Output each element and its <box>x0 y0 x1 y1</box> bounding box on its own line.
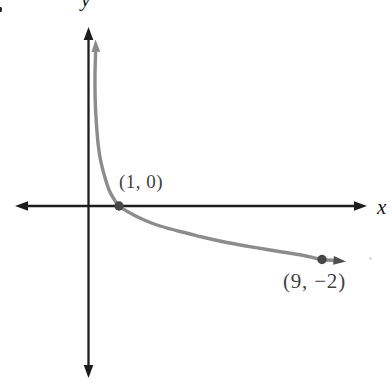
scan-speck <box>369 257 372 260</box>
point-dot-9-neg2 <box>317 255 326 264</box>
log-curve <box>95 52 335 261</box>
graph-canvas <box>0 0 392 383</box>
curve-arrow-right-icon <box>333 256 346 265</box>
x-axis-arrow-left-icon <box>15 201 28 211</box>
graph-figure: y x (1, 0) (9, −2) <box>0 0 392 383</box>
point-label-9-neg2: (9, −2) <box>283 269 346 294</box>
x-axis-arrow-right-icon <box>354 201 367 211</box>
point-dot-1-0 <box>114 201 123 210</box>
point-label-1-0: (1, 0) <box>119 171 163 193</box>
y-axis-arrow-up-icon <box>84 27 94 40</box>
y-axis-label: y <box>81 0 90 12</box>
y-axis-arrow-down-icon <box>84 365 94 378</box>
curve-arrow-up-icon <box>92 40 101 53</box>
x-axis-label: x <box>377 195 386 220</box>
